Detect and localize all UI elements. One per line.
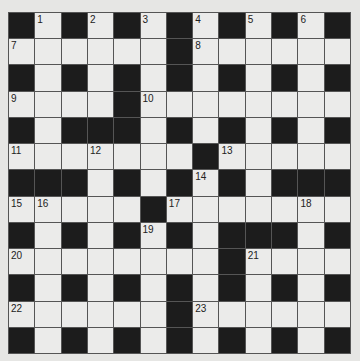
answer-square[interactable] — [35, 144, 60, 169]
answer-square[interactable]: 19 — [141, 223, 166, 248]
answer-square[interactable] — [35, 302, 60, 327]
answer-square[interactable]: 14 — [193, 170, 218, 195]
answer-square[interactable] — [88, 92, 113, 117]
answer-square[interactable]: 16 — [35, 197, 60, 222]
answer-square[interactable] — [298, 249, 323, 274]
answer-square[interactable] — [219, 197, 244, 222]
answer-square[interactable] — [88, 275, 113, 300]
answer-square[interactable] — [114, 144, 139, 169]
answer-square[interactable] — [141, 275, 166, 300]
answer-square[interactable] — [325, 39, 350, 64]
answer-square[interactable]: 10 — [141, 92, 166, 117]
answer-square[interactable]: 20 — [9, 249, 34, 274]
answer-square[interactable] — [35, 92, 60, 117]
answer-square[interactable] — [272, 249, 297, 274]
answer-square[interactable] — [219, 302, 244, 327]
answer-square[interactable] — [88, 39, 113, 64]
answer-square[interactable] — [193, 65, 218, 90]
answer-square[interactable] — [141, 170, 166, 195]
answer-square[interactable] — [193, 118, 218, 143]
answer-square[interactable]: 13 — [219, 144, 244, 169]
answer-square[interactable] — [114, 197, 139, 222]
answer-square[interactable]: 15 — [9, 197, 34, 222]
answer-square[interactable] — [246, 302, 271, 327]
answer-square[interactable] — [298, 92, 323, 117]
answer-square[interactable] — [246, 197, 271, 222]
answer-square[interactable] — [62, 92, 87, 117]
answer-square[interactable] — [325, 92, 350, 117]
answer-square[interactable]: 4 — [193, 13, 218, 38]
answer-square[interactable] — [272, 144, 297, 169]
answer-square[interactable] — [298, 302, 323, 327]
answer-square[interactable] — [141, 39, 166, 64]
answer-square[interactable] — [325, 144, 350, 169]
answer-square[interactable] — [35, 328, 60, 353]
answer-square[interactable] — [141, 65, 166, 90]
answer-square[interactable] — [272, 39, 297, 64]
answer-square[interactable]: 18 — [298, 197, 323, 222]
answer-square[interactable] — [298, 65, 323, 90]
answer-square[interactable] — [246, 328, 271, 353]
answer-square[interactable]: 11 — [9, 144, 34, 169]
answer-square[interactable]: 12 — [88, 144, 113, 169]
answer-square[interactable] — [246, 118, 271, 143]
answer-square[interactable]: 7 — [9, 39, 34, 64]
answer-square[interactable] — [88, 249, 113, 274]
answer-square[interactable]: 22 — [9, 302, 34, 327]
answer-square[interactable] — [167, 92, 192, 117]
answer-square[interactable] — [114, 302, 139, 327]
answer-square[interactable] — [246, 39, 271, 64]
answer-square[interactable] — [246, 275, 271, 300]
answer-square[interactable] — [298, 39, 323, 64]
answer-square[interactable] — [88, 170, 113, 195]
answer-square[interactable] — [325, 302, 350, 327]
answer-square[interactable] — [246, 65, 271, 90]
answer-square[interactable] — [298, 144, 323, 169]
answer-square[interactable] — [35, 249, 60, 274]
answer-square[interactable] — [193, 275, 218, 300]
answer-square[interactable] — [298, 328, 323, 353]
answer-square[interactable] — [167, 249, 192, 274]
answer-square[interactable]: 2 — [88, 13, 113, 38]
answer-square[interactable] — [141, 249, 166, 274]
answer-square[interactable] — [219, 39, 244, 64]
answer-square[interactable] — [62, 302, 87, 327]
answer-square[interactable] — [193, 197, 218, 222]
answer-square[interactable]: 5 — [246, 13, 271, 38]
answer-square[interactable] — [325, 249, 350, 274]
answer-square[interactable] — [62, 249, 87, 274]
answer-square[interactable] — [35, 39, 60, 64]
answer-square[interactable] — [88, 197, 113, 222]
answer-square[interactable]: 21 — [246, 249, 271, 274]
answer-square[interactable]: 8 — [193, 39, 218, 64]
answer-square[interactable]: 23 — [193, 302, 218, 327]
answer-square[interactable] — [88, 302, 113, 327]
answer-square[interactable] — [35, 275, 60, 300]
answer-square[interactable] — [35, 65, 60, 90]
answer-square[interactable] — [88, 223, 113, 248]
answer-square[interactable] — [114, 39, 139, 64]
answer-square[interactable]: 9 — [9, 92, 34, 117]
answer-square[interactable] — [141, 118, 166, 143]
answer-square[interactable] — [193, 223, 218, 248]
answer-square[interactable] — [62, 144, 87, 169]
answer-square[interactable]: 3 — [141, 13, 166, 38]
answer-square[interactable] — [298, 223, 323, 248]
answer-square[interactable]: 17 — [167, 197, 192, 222]
answer-square[interactable] — [325, 197, 350, 222]
answer-square[interactable] — [219, 92, 244, 117]
answer-square[interactable] — [141, 302, 166, 327]
answer-square[interactable] — [246, 92, 271, 117]
answer-square[interactable] — [62, 39, 87, 64]
answer-square[interactable] — [298, 275, 323, 300]
answer-square[interactable] — [246, 144, 271, 169]
answer-square[interactable] — [272, 92, 297, 117]
answer-square[interactable] — [193, 249, 218, 274]
answer-square[interactable] — [193, 92, 218, 117]
answer-square[interactable] — [167, 144, 192, 169]
answer-square[interactable] — [141, 328, 166, 353]
answer-square[interactable] — [193, 328, 218, 353]
answer-square[interactable]: 6 — [298, 13, 323, 38]
answer-square[interactable] — [62, 197, 87, 222]
answer-square[interactable] — [246, 170, 271, 195]
